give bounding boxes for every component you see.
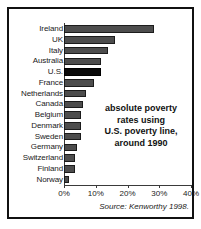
chart-frame: IrelandUKItalyAustraliaU.S.FranceNetherl… [7, 7, 194, 219]
bar-sweden [64, 133, 81, 141]
bar-france [64, 79, 94, 87]
annotation-line: rates using [93, 115, 189, 127]
bar-row: Switzerland [9, 153, 192, 163]
x-tick-label: 40% [176, 189, 201, 198]
x-tick-label: 20% [113, 189, 143, 198]
x-tick-label: 30% [144, 189, 174, 198]
bar-row: UK [9, 35, 192, 45]
bar-finland [64, 165, 75, 173]
bar-germany [64, 144, 77, 152]
x-tick [191, 185, 192, 188]
annotation-line: U.S. poverty line, [93, 126, 189, 138]
bar-norway [64, 176, 69, 184]
bar-row: U.S. [9, 67, 192, 77]
bar-track [64, 78, 192, 88]
bar-label-sweden: Sweden [9, 132, 63, 142]
bar-label-canada: Canada [9, 99, 63, 109]
bar-label-uk: UK [9, 35, 63, 45]
figure: IrelandUKItalyAustraliaU.S.FranceNetherl… [0, 0, 201, 229]
bar-label-belgium: Belgium [9, 110, 63, 120]
x-tick-label: 0% [49, 189, 79, 198]
bar-australia [64, 58, 101, 66]
source-note: Source: Kenworthy 1998. [49, 202, 189, 211]
bar-track [64, 56, 192, 66]
bar-label-france: France [9, 78, 63, 88]
plot-area: IrelandUKItalyAustraliaU.S.FranceNetherl… [9, 9, 192, 217]
bar-u-s [64, 68, 101, 76]
bar-italy [64, 47, 108, 55]
bar-track [64, 46, 192, 56]
bar-netherlands [64, 90, 86, 98]
bar-row: Italy [9, 46, 192, 56]
bar-belgium [64, 111, 81, 119]
bar-canada [64, 101, 83, 109]
bar-row: Netherlands [9, 89, 192, 99]
bar-track [64, 89, 192, 99]
bar-row: Australia [9, 56, 192, 66]
bar-label-italy: Italy [9, 46, 63, 56]
x-tick [64, 185, 65, 188]
bar-label-switzerland: Switzerland [9, 153, 63, 163]
bar-track [64, 153, 192, 163]
annotation-line: absolute poverty [93, 103, 189, 115]
bar-label-u-s: U.S. [9, 67, 63, 77]
bar-row: France [9, 78, 192, 88]
bar-track [64, 175, 192, 185]
x-tick-label: 10% [81, 189, 111, 198]
bar-track [64, 67, 192, 77]
x-tick [96, 185, 97, 188]
bar-label-finland: Finland [9, 164, 63, 174]
bar-label-germany: Germany [9, 142, 63, 152]
bar-row: Finland [9, 164, 192, 174]
bar-label-denmark: Denmark [9, 121, 63, 131]
bar-uk [64, 36, 115, 44]
bar-denmark [64, 122, 81, 130]
chart-annotation: absolute povertyrates usingU.S. poverty … [93, 103, 189, 149]
bar-track [64, 35, 192, 45]
bar-label-netherlands: Netherlands [9, 89, 63, 99]
bar-track [64, 24, 192, 34]
bar-label-norway: Norway [9, 175, 63, 185]
bar-label-ireland: Ireland [9, 24, 63, 34]
bar-row: Norway [9, 175, 192, 185]
bar-track [64, 164, 192, 174]
bar-row: Ireland [9, 24, 192, 34]
annotation-line: around 1990 [93, 138, 189, 150]
x-tick [159, 185, 160, 188]
bar-switzerland [64, 154, 75, 162]
bar-label-australia: Australia [9, 56, 63, 66]
x-tick [128, 185, 129, 188]
bar-ireland [64, 25, 154, 33]
